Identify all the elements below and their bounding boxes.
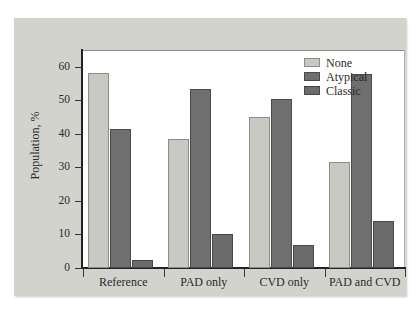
legend-swatch-atypical: [304, 72, 320, 81]
y-tick-mark: [75, 201, 82, 202]
legend-label-none: None: [326, 57, 352, 69]
bar-atypical-reference[interactable]: [110, 129, 131, 268]
y-tick-label: 10: [36, 228, 70, 240]
y-tick-mark: [75, 268, 82, 269]
x-axis-label-cvd-only: CVD only: [244, 275, 325, 290]
bar-classic-reference[interactable]: [132, 260, 153, 268]
legend-label-atypical: Atypical: [326, 71, 367, 83]
chart-legend: NoneAtypicalClassic: [304, 56, 400, 98]
legend-item-atypical[interactable]: Atypical: [304, 70, 400, 83]
y-tick-label: 50: [36, 94, 70, 106]
bar-classic-pad-and-cvd[interactable]: [373, 221, 394, 268]
bar-none-cvd-only[interactable]: [249, 117, 270, 268]
bar-none-pad-only[interactable]: [168, 139, 189, 268]
bar-group: [83, 50, 164, 268]
bar-classic-pad-only[interactable]: [212, 234, 233, 268]
bar-atypical-cvd-only[interactable]: [271, 99, 292, 268]
legend-item-none[interactable]: None: [304, 56, 400, 69]
y-tick-label: 20: [36, 195, 70, 207]
y-tick-label: 40: [36, 128, 70, 140]
y-tick-label: 60: [36, 61, 70, 73]
legend-label-classic: Classic: [326, 85, 361, 97]
legend-swatch-none: [304, 58, 320, 67]
y-tick-mark: [75, 67, 82, 68]
y-tick-label: 0: [36, 262, 70, 274]
y-tick-mark: [75, 100, 82, 101]
bar-atypical-pad-and-cvd[interactable]: [351, 74, 372, 268]
bar-none-reference[interactable]: [88, 73, 109, 268]
bar-classic-cvd-only[interactable]: [293, 245, 314, 268]
bar-group: [164, 50, 245, 268]
x-axis-label-pad-only: PAD only: [164, 275, 245, 290]
bar-atypical-pad-only[interactable]: [190, 89, 211, 268]
category-separator: [405, 269, 406, 277]
bar-none-pad-and-cvd[interactable]: [329, 162, 350, 268]
chart-panel: Population, % 0102030405060 ReferencePAD…: [14, 18, 406, 296]
x-axis-label-pad-and-cvd: PAD and CVD: [325, 275, 406, 290]
bar-chart-figure: Population, % 0102030405060 ReferencePAD…: [0, 0, 418, 309]
legend-swatch-classic: [304, 86, 320, 95]
y-tick-mark: [75, 134, 82, 135]
y-tick-mark: [75, 167, 82, 168]
y-tick-mark: [75, 234, 82, 235]
y-tick-label: 30: [36, 161, 70, 173]
x-axis-label-reference: Reference: [83, 275, 164, 290]
legend-item-classic[interactable]: Classic: [304, 84, 400, 97]
